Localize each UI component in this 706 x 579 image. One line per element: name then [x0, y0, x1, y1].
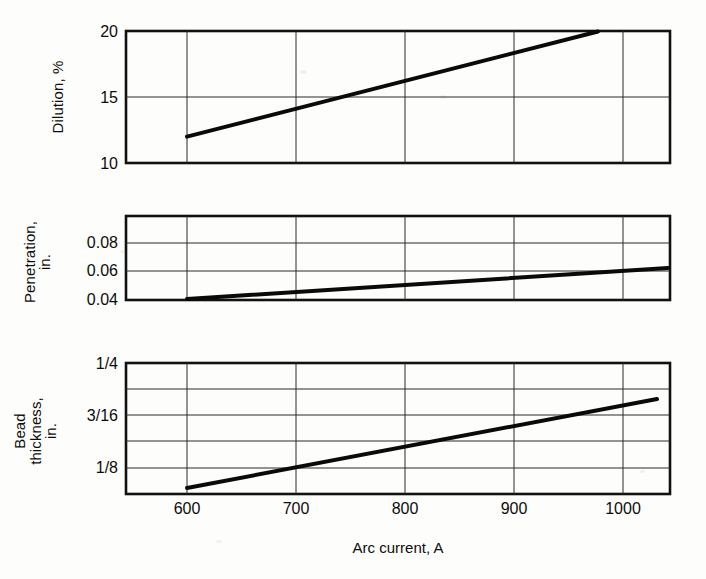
plot-area-dilution	[0, 0, 706, 195]
x-tick-1000: 1000	[593, 501, 653, 517]
panel-dilution: Dilution, % 20 15 10	[0, 0, 706, 195]
x-tick-label: 900	[501, 500, 528, 517]
figure-root: Dilution, % 20 15 10 Penetrat	[0, 0, 706, 579]
x-axis-title: Arc current, A	[298, 540, 498, 556]
plot-area-penetration	[0, 195, 706, 345]
x-tick-label: 1000	[605, 500, 641, 517]
x-tick-label: 600	[174, 500, 201, 517]
x-tick-label: 800	[392, 500, 419, 517]
x-axis-title-text: Arc current, A	[353, 539, 444, 556]
x-tick-label: 700	[283, 500, 310, 517]
x-tick-800: 800	[375, 501, 435, 517]
x-tick-600: 600	[157, 501, 217, 517]
x-tick-700: 700	[266, 501, 326, 517]
x-tick-900: 900	[484, 501, 544, 517]
panel-penetration: Penetration, in. 0.08 0.06 0.04	[0, 195, 706, 345]
